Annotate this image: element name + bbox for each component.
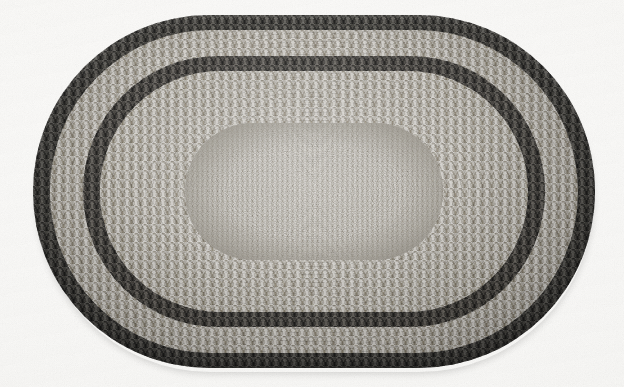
center-coil-lines [185,123,443,260]
center-fine-braid-texture [185,123,443,260]
center-speckle [185,123,443,260]
rug-band-center-medallion [185,123,443,260]
center-edge-feather [185,123,443,260]
braided-oval-rug [33,15,595,368]
screenshot-canvas [0,0,624,387]
